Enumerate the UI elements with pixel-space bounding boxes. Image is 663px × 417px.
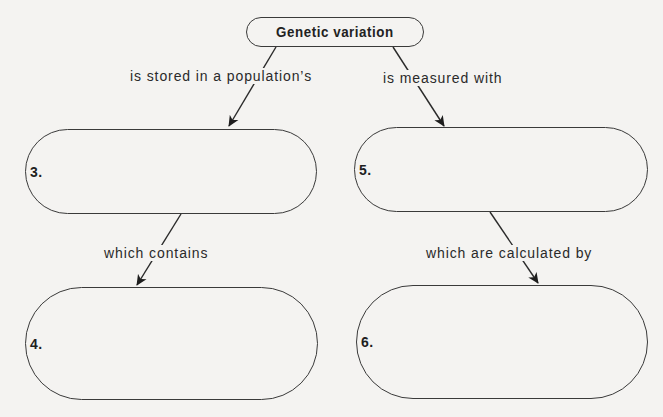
link-label-which-contains: which contains <box>102 245 210 261</box>
answer-box-5[interactable]: 5. <box>354 127 648 212</box>
root-node-genetic-variation: Genetic variation <box>246 17 424 47</box>
answer-box-number: 3. <box>30 164 43 180</box>
answer-box-4[interactable]: 4. <box>25 287 318 400</box>
answer-box-3[interactable]: 3. <box>25 129 317 214</box>
answer-box-number: 6. <box>361 334 374 350</box>
answer-box-6[interactable]: 6. <box>356 285 648 399</box>
answer-box-number: 5. <box>359 162 372 178</box>
answer-box-number: 4. <box>30 336 43 352</box>
root-node-label: Genetic variation <box>276 24 394 40</box>
link-label-calculated-by: which are calculated by <box>424 245 594 261</box>
link-label-stored-in: is stored in a population’s <box>128 68 314 84</box>
arrow-root-to-3 <box>229 47 276 126</box>
link-label-measured-with: is measured with <box>381 70 504 86</box>
arrow-root-to-5 <box>393 47 444 126</box>
concept-map: Genetic variation is stored in a populat… <box>0 0 663 417</box>
